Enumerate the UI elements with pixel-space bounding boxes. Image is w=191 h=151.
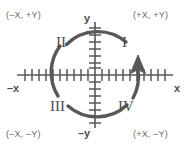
coordinate-plane-diagram: (–X, +Y) (+X, +Y) (–X, –Y) (+X, –Y) I II… xyxy=(0,0,191,151)
corner-label-bottom-left: (–X, –Y) xyxy=(6,130,41,139)
corner-label-bottom-right: (+X, –Y) xyxy=(133,130,168,139)
quadrant-label-3: III xyxy=(50,99,65,114)
corner-label-top-left: (–X, +Y) xyxy=(6,11,41,20)
quadrant-label-1: I xyxy=(122,35,127,50)
x-axis-positive-label: x xyxy=(174,83,180,94)
quadrant-label-2: II xyxy=(56,35,66,50)
y-axis-positive-label: y xyxy=(84,13,90,24)
quadrant-label-4: IV xyxy=(118,99,134,114)
x-axis-negative-label: –x xyxy=(7,83,19,94)
corner-label-top-right: (+X, +Y) xyxy=(133,11,168,20)
y-axis-negative-label: –y xyxy=(78,128,90,139)
